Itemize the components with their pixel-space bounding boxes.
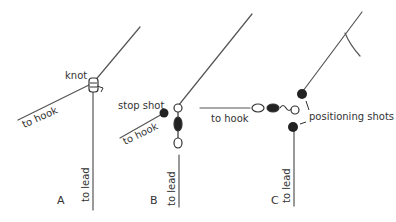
- panel-b-label: B: [150, 194, 158, 207]
- panel-b-lead-label: to lead: [166, 171, 177, 206]
- panel-c-line-tag: [345, 33, 360, 56]
- swivel-horizontal-icon: [252, 104, 299, 114]
- swivel-icon: [174, 104, 182, 148]
- panel-b-hook-label: to hook: [121, 120, 160, 146]
- positioning-shot-lower-icon: [288, 122, 298, 132]
- arrow-icon: [300, 101, 309, 124]
- panel-c-hook-label: to hook: [211, 113, 249, 124]
- positioning-shot-upper-icon: [297, 89, 307, 99]
- panel-a-hook-label: to hook: [20, 104, 59, 129]
- fishing-rig-diagram: knot to hook to lead A stop shot to hook…: [0, 0, 396, 222]
- panel-b-main-line: [178, 14, 252, 106]
- panel-c-main-line: [300, 12, 362, 95]
- stop-shot-label: stop shot: [118, 100, 164, 111]
- panel-c-label: C: [271, 194, 279, 207]
- knot-icon: [89, 78, 103, 92]
- panel-a-main-line: [93, 27, 140, 83]
- positioning-shots-label: positioning shots: [309, 111, 394, 122]
- panel-c-lead-label: to lead: [281, 168, 292, 203]
- panel-a-lead-label: to lead: [80, 167, 91, 202]
- panel-a-label: A: [57, 194, 65, 207]
- knot-label: knot: [65, 70, 87, 81]
